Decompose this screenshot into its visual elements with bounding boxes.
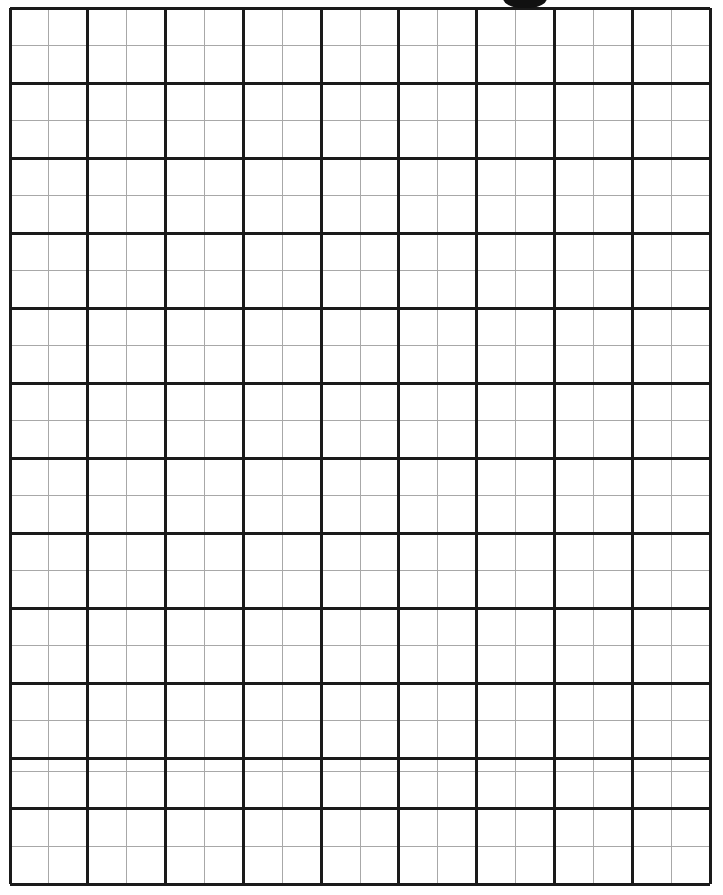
grid-major-horizontal-line <box>10 457 710 460</box>
grid-minor-horizontal-line <box>10 420 710 421</box>
grid-minor-horizontal-line <box>10 195 710 196</box>
grid-minor-vertical-line <box>126 8 127 884</box>
grid-minor-horizontal-line <box>10 45 710 46</box>
grid-major-horizontal-line <box>10 607 710 610</box>
page-title: Blank Grid Worksheet <box>0 0 1 1</box>
grid-major-vertical-line <box>475 8 478 884</box>
grid-major-horizontal-line <box>10 532 710 535</box>
grid-minor-vertical-line <box>671 8 672 884</box>
grid-major-vertical-line <box>9 8 12 884</box>
graph-paper-grid[interactable] <box>10 8 710 884</box>
grid-major-vertical-line <box>86 8 89 884</box>
grid-minor-vertical-line <box>204 8 205 884</box>
grid-major-vertical-line <box>709 8 712 884</box>
grid-major-horizontal-line <box>10 807 710 810</box>
grid-minor-horizontal-line <box>10 720 710 721</box>
grid-minor-horizontal-line <box>10 846 710 847</box>
grid-minor-vertical-line <box>593 8 594 884</box>
grid-major-horizontal-line <box>10 7 710 10</box>
grid-minor-vertical-line <box>282 8 283 884</box>
grid-major-vertical-line <box>397 8 400 884</box>
grid-major-vertical-line <box>164 8 167 884</box>
grid-major-horizontal-line <box>10 757 710 760</box>
grid-major-horizontal-line <box>10 82 710 85</box>
grid-major-vertical-line <box>320 8 323 884</box>
grid-major-horizontal-line <box>10 682 710 685</box>
grid-minor-vertical-line <box>515 8 516 884</box>
grid-minor-horizontal-line <box>10 495 710 496</box>
grid-major-vertical-line <box>553 8 556 884</box>
grid-minor-horizontal-line <box>10 270 710 271</box>
grid-major-horizontal-line <box>10 382 710 385</box>
worksheet-page: Blank Grid Worksheet <box>0 0 723 895</box>
grid-major-vertical-line <box>631 8 634 884</box>
grid-minor-horizontal-line <box>10 645 710 646</box>
grid-major-vertical-line <box>242 8 245 884</box>
grid-minor-vertical-line <box>48 8 49 884</box>
grid-minor-vertical-line <box>437 8 438 884</box>
grid-minor-horizontal-line <box>10 771 710 772</box>
grid-major-horizontal-line <box>10 883 710 886</box>
grid-minor-horizontal-line <box>10 120 710 121</box>
grid-major-horizontal-line <box>10 157 710 160</box>
grid-major-horizontal-line <box>10 307 710 310</box>
grid-minor-horizontal-line <box>10 345 710 346</box>
grid-major-horizontal-line <box>10 232 710 235</box>
grid-minor-horizontal-line <box>10 570 710 571</box>
grid-minor-vertical-line <box>360 8 361 884</box>
